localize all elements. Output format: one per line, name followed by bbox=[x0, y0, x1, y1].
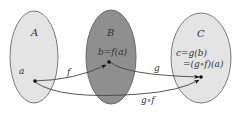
element-a-point bbox=[33, 79, 37, 83]
mapping-f-label: f bbox=[66, 67, 72, 77]
element-c-point bbox=[199, 75, 203, 79]
element-c-label-line2: =(g∘f)(a) bbox=[183, 59, 224, 69]
set-a-label: A bbox=[30, 27, 38, 38]
set-c-ellipse bbox=[171, 13, 231, 103]
mapping-g-compose-f-label: g∘f bbox=[141, 95, 156, 105]
function-composition-diagram: A a B b=f(a) C c=g(b) =(g∘f)(a) f g g∘f bbox=[0, 0, 237, 113]
element-b-point bbox=[107, 60, 111, 64]
set-c: C c=g(b) =(g∘f)(a) bbox=[171, 13, 231, 103]
mapping-g-label: g bbox=[154, 63, 160, 73]
set-b: B b=f(a) bbox=[86, 10, 136, 104]
element-c-label-line1: c=g(b) bbox=[176, 48, 208, 58]
set-c-label: C bbox=[197, 28, 205, 39]
element-a-label: a bbox=[19, 66, 24, 76]
set-b-label: B bbox=[106, 27, 114, 38]
element-b-label: b=f(a) bbox=[98, 47, 128, 57]
set-b-ellipse bbox=[86, 10, 136, 104]
